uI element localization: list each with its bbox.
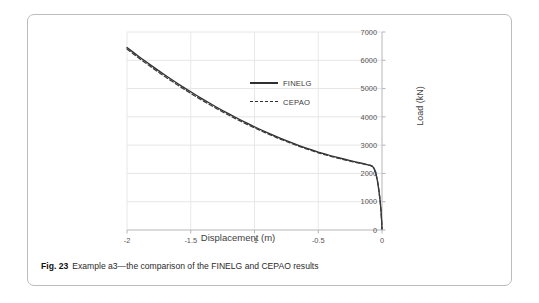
y-axis-title: Load (kN) — [415, 74, 429, 138]
legend-label-cepao: CEPAO — [283, 98, 310, 107]
line-chart-plot: -2-1.5-1-0.50 01000200030004000500060007… — [28, 15, 513, 255]
legend-item-cepao: CEPAO — [250, 95, 360, 109]
figure-caption-text: Example a3—the comparison of the FINELG … — [72, 261, 318, 271]
y-tick-label: 5000 — [361, 84, 377, 93]
legend-item-finelg: FINELG — [250, 76, 360, 90]
legend-swatch-dashed-icon — [250, 97, 278, 107]
x-axis-title: Displacement (m) — [88, 232, 388, 243]
y-tick-marks — [382, 32, 386, 230]
y-tick-label: 6000 — [361, 56, 377, 65]
chart-legend: FINELG CEPAO — [250, 76, 360, 114]
legend-label-finelg: FINELG — [283, 79, 312, 88]
figure-page: -2-1.5-1-0.50 01000200030004000500060007… — [0, 0, 539, 303]
figure-caption: Fig. 23Example a3—the comparison of the … — [41, 261, 491, 271]
y-tick-label: 7000 — [361, 28, 377, 37]
y-tick-label: 1000 — [361, 197, 377, 206]
figure-card: -2-1.5-1-0.50 01000200030004000500060007… — [27, 14, 512, 286]
legend-swatch-solid-icon — [250, 78, 278, 88]
y-tick-label: 4000 — [361, 113, 377, 122]
chart-area: -2-1.5-1-0.50 01000200030004000500060007… — [28, 15, 513, 255]
figure-number: Fig. 23 — [41, 261, 68, 271]
y-tick-label: 3000 — [361, 141, 377, 150]
